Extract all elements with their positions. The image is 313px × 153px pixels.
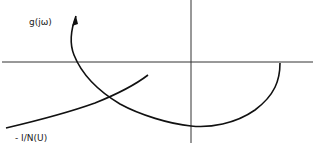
- neg-inverse-describing-function-curve: [6, 75, 148, 128]
- g-jw-label: g(jω): [29, 17, 52, 27]
- neg-inverse-n-label: - I/N(U): [15, 133, 47, 143]
- g-jw-curve: [71, 16, 280, 126]
